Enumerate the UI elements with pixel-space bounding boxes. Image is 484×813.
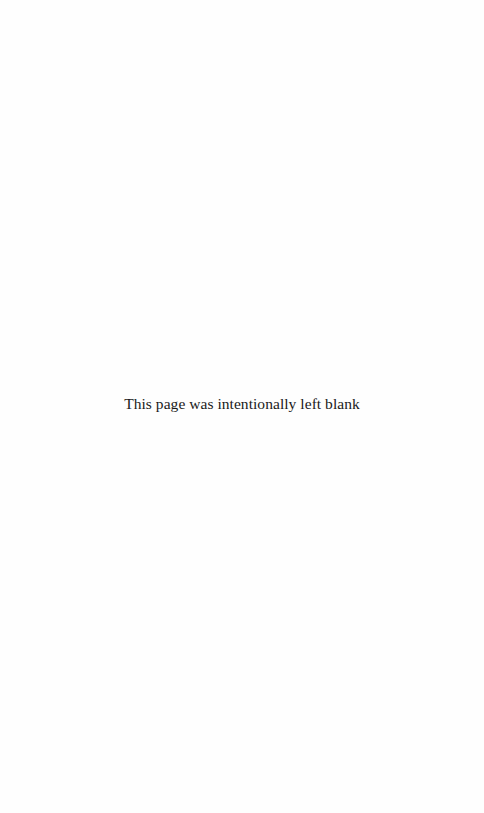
blank-page-notice: This page was intentionally left blank <box>0 395 484 413</box>
blank-page: This page was intentionally left blank <box>0 0 484 813</box>
